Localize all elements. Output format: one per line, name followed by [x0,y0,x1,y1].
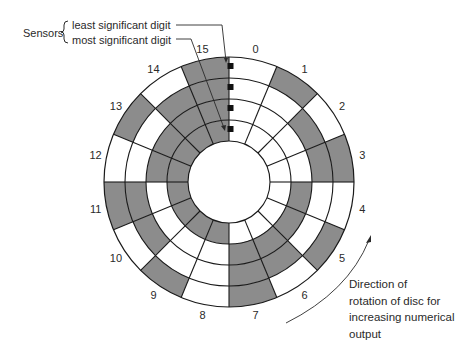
sector-divider [253,105,261,124]
direction-note-line-3: increasing numerical [349,309,454,326]
rotation-arrowhead-icon [366,235,371,243]
sector-label-3: 3 [359,149,365,161]
sector-divider [258,138,273,153]
direction-note-line-2: rotation of disc for [349,293,454,310]
lsd-label: least significant digit [72,19,170,31]
sector-label-1: 1 [301,63,307,75]
sector-label-5: 5 [339,252,345,264]
sector-divider [286,150,305,158]
sector-label-7: 7 [252,309,258,321]
sector-label-9: 9 [150,289,156,301]
direction-note-line-1: Direction of [349,276,454,293]
sector-divider [306,214,325,222]
binary-coded-disc-diagram: 0123456789101112131415 Sensors least sig… [0,0,474,346]
sector-label-6: 6 [301,289,307,301]
sector-divider [261,86,269,105]
brace-icon [61,21,68,43]
sensor-square-icon [228,84,234,90]
sector-divider [133,142,152,150]
sector-label-8: 8 [199,309,205,321]
sector-divider [267,158,286,166]
sector-divider [245,125,253,144]
sensors-label: Sensors [23,27,64,39]
sector-label-13: 13 [110,100,122,112]
sector-label-15: 15 [196,43,208,55]
sector-divider [189,259,197,278]
direction-note-line-4: output [349,326,454,343]
sector-label-2: 2 [339,100,345,112]
direction-note: Direction of rotation of disc for increa… [349,276,454,342]
sector-label-4: 4 [359,203,365,215]
sector-label-12: 12 [89,149,101,161]
sensor-square-icon [228,126,234,132]
ring-circle [188,141,270,223]
sector-divider [170,226,185,241]
sector-divider [267,198,286,206]
sector-label-11: 11 [90,203,101,215]
msd-label: most significant digit [72,34,171,46]
sector-label-14: 14 [147,63,159,75]
sector-divider [197,239,205,258]
disc-spokes [104,57,354,307]
sector-label-0: 0 [252,43,258,55]
sensor-square-icon [228,63,234,69]
sensor-square-icon [228,105,234,111]
sector-divider [258,211,273,226]
sector-label-10: 10 [110,252,122,264]
sector-divider [152,206,171,214]
sector-divider [245,220,253,239]
sector-divider [273,123,288,138]
